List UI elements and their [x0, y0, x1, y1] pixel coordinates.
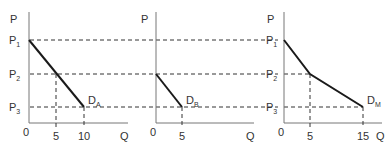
y-axis-label-m: P [267, 13, 274, 25]
panel-b: P 0 5 Q DB [141, 12, 255, 142]
x-axis-label-b: Q [246, 130, 255, 142]
x-tick-10-a: 10 [78, 130, 90, 142]
origin-label-a: 0 [23, 126, 29, 138]
x-tick-5-b: 5 [179, 130, 185, 142]
price-label-p2-m: P2 [266, 68, 277, 82]
price-label-p1-m: P1 [266, 34, 277, 48]
y-axis-label-b: P [141, 13, 148, 25]
x-axis-label-m: Q [376, 130, 385, 142]
price-label-p3: P3 [9, 101, 20, 115]
curve-label-dm: DM [367, 94, 381, 108]
x-axis-label-a: Q [120, 130, 129, 142]
panel-a: P P1 P2 P3 0 5 10 Q DA [9, 12, 129, 142]
demand-curve-market [284, 40, 363, 107]
price-label-p1: P1 [9, 34, 20, 48]
demand-diagram: P P1 P2 P3 0 5 10 Q DA P 0 5 Q DB P P1 P… [0, 0, 392, 150]
price-label-p3-m: P3 [266, 101, 277, 115]
demand-curve-b [156, 74, 182, 107]
origin-label-m: 0 [278, 126, 284, 138]
x-tick-5-a: 5 [53, 130, 59, 142]
x-tick-5-m: 5 [307, 130, 313, 142]
origin-label-b: 0 [150, 126, 156, 138]
y-axis-label-a: P [10, 13, 17, 25]
curve-label-da: DA [88, 94, 101, 108]
panel-market: P P1 P2 P3 0 5 15 Q DM [266, 12, 385, 142]
x-tick-15-m: 15 [357, 130, 369, 142]
price-label-p2: P2 [9, 68, 20, 82]
curve-label-db: DB [186, 94, 199, 108]
